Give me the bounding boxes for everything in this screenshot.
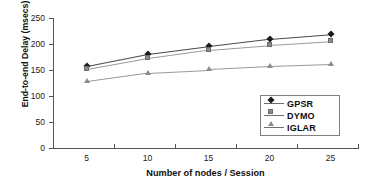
data-point-marker xyxy=(145,55,150,60)
data-point-marker xyxy=(267,63,273,68)
x-axis-tick-label: 25 xyxy=(316,153,346,163)
legend-label: DYMO xyxy=(284,111,315,121)
y-axis-tick xyxy=(49,44,53,45)
x-axis-tick xyxy=(358,144,359,149)
x-axis-tick-label: 10 xyxy=(133,153,163,163)
x-axis-tick xyxy=(114,144,115,149)
y-axis-tick xyxy=(49,70,53,71)
x-axis-tick-label: 20 xyxy=(255,153,285,163)
x-axis-tick xyxy=(297,144,298,149)
y-axis-title: End-to-end Delay (msecs) xyxy=(20,0,30,134)
series-line-segment xyxy=(270,41,331,46)
data-point-marker xyxy=(328,61,334,66)
legend: GPSR DYMO IGLAR xyxy=(260,95,340,136)
series-line-segment xyxy=(270,64,331,67)
data-point-marker xyxy=(145,70,151,75)
data-point-marker xyxy=(84,78,90,83)
data-point-marker xyxy=(327,31,334,38)
x-axis-tick xyxy=(175,144,176,149)
legend-item-iglar: IGLAR xyxy=(261,122,339,134)
x-axis-line xyxy=(53,148,358,149)
legend-label: IGLAR xyxy=(284,123,316,133)
y-axis-tick-label: 0 xyxy=(19,144,45,153)
x-axis-tick-label: 15 xyxy=(194,153,224,163)
x-axis-tick xyxy=(236,144,237,149)
x-axis-title: Number of nodes / Session xyxy=(53,168,358,178)
x-axis-tick-label: 5 xyxy=(72,153,102,163)
series-line-segment xyxy=(270,34,331,40)
y-axis-tick xyxy=(49,122,53,123)
plot-area: 050100150200250 510152025 End-to-end Del… xyxy=(0,0,372,195)
legend-label: GPSR xyxy=(284,99,313,109)
series-line-segment xyxy=(148,69,209,73)
iglar-triangle-marker-icon xyxy=(264,123,284,133)
series-line-segment xyxy=(209,66,270,70)
data-point-marker xyxy=(267,42,272,47)
data-point-marker xyxy=(206,47,211,52)
y-axis-tick xyxy=(49,96,53,97)
gpsr-diamond-marker-icon xyxy=(264,99,284,109)
chart-figure: 050100150200250 510152025 End-to-end Del… xyxy=(0,0,372,195)
series-line-segment xyxy=(87,73,148,82)
data-point-marker xyxy=(84,66,89,71)
data-point-marker xyxy=(206,66,212,71)
x-axis-tick xyxy=(53,144,54,149)
dymo-square-marker-icon xyxy=(264,111,284,121)
data-point-marker xyxy=(328,38,333,43)
y-axis-tick xyxy=(49,18,53,19)
y-axis-line xyxy=(53,18,54,149)
